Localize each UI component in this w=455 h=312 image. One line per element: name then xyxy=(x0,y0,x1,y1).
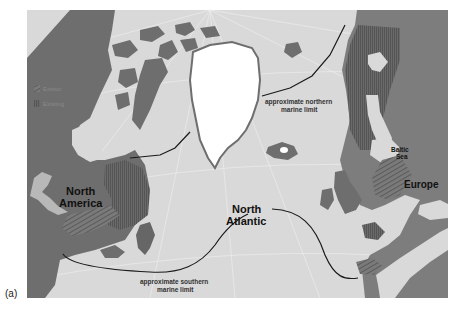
legend-label-extinct: Extinct xyxy=(43,86,61,92)
panel-label: (a) xyxy=(5,288,17,299)
label-north-atlantic-line2: Atlantic xyxy=(226,215,266,227)
legend-swatch-existing xyxy=(34,100,40,107)
legend-swatch-extinct xyxy=(34,85,40,92)
iceland-icecap xyxy=(280,147,288,153)
label-baltic-line2: Sea xyxy=(396,153,408,160)
label-southern-limit-line2: marine limit xyxy=(157,286,194,293)
label-northern-limit-line2: marine limit xyxy=(281,106,318,113)
label-north-america-line2: America xyxy=(59,197,103,209)
label-northern-limit-line1: approximate northern xyxy=(265,98,332,106)
label-baltic-line1: Baltic xyxy=(391,146,409,153)
legend-label-existing: Existing xyxy=(43,101,64,107)
label-north-atlantic-line1: North xyxy=(232,203,262,215)
north-atlantic-map: Extinct Existing North America North Atl… xyxy=(0,0,455,312)
label-southern-limit-line1: approximate southern xyxy=(140,278,208,286)
label-europe: Europe xyxy=(404,179,439,190)
label-north-america-line1: North xyxy=(66,185,96,197)
